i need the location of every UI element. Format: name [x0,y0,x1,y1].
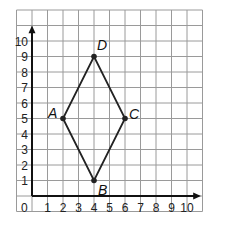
y-tick-label: 8 [21,66,28,80]
vertex-point-b [91,178,97,184]
y-tick-label: 6 [21,97,28,111]
vertex-point-a [60,116,66,122]
x-tick-label: 1 [44,201,51,215]
origin-label: 0 [21,201,28,215]
vertex-label-a: A [47,105,57,121]
x-tick-label: 6 [122,201,129,215]
y-tick-label: 10 [15,35,29,49]
vertex-label-d: D [97,37,107,53]
x-tick-label: 8 [153,201,160,215]
coordinate-plane: 12345678910 12345678910 0 ABCD [0,0,234,229]
x-tick-label: 4 [91,201,98,215]
y-tick-label: 4 [21,128,28,142]
x-tick-label: 5 [106,201,113,215]
y-tick-label: 1 [21,174,28,188]
x-tick-label: 9 [168,201,175,215]
x-tick-label: 3 [75,201,82,215]
x-tick-label: 7 [137,201,144,215]
y-tick-label: 7 [21,81,28,95]
y-tick-label: 2 [21,159,28,173]
y-tick-label: 9 [21,50,28,64]
y-tick-label: 3 [21,143,28,157]
vertex-point-d [91,54,97,60]
x-tick-label: 10 [180,201,194,215]
y-axis-arrow-icon [29,26,36,34]
vertex-label-b: B [98,182,107,198]
x-axis-arrow-icon [193,193,201,200]
x-tick-label: 2 [60,201,67,215]
vertex-point-c [122,116,128,122]
x-axis-tick-labels: 12345678910 [44,201,194,215]
vertex-label-c: C [129,106,140,122]
grid [17,10,203,212]
y-tick-label: 5 [21,112,28,126]
